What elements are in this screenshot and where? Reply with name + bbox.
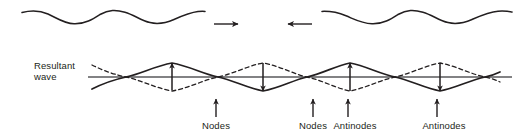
resultant-wave-label-line1: Resultant xyxy=(34,60,75,71)
nodes-label-2: Nodes xyxy=(299,120,327,131)
standing-wave-diagram: Resultant wave Nodes Nodes Antinodes Ant… xyxy=(0,0,528,138)
nodes-label-1: Nodes xyxy=(202,120,230,131)
antinodes-label-1: Antinodes xyxy=(333,120,376,131)
antinodes-label-2: Antinodes xyxy=(422,120,465,131)
diagram-canvas xyxy=(0,0,528,138)
travelling-wave-right xyxy=(322,10,512,23)
resultant-wave-label-line2: wave xyxy=(34,71,75,82)
travelling-wave-left xyxy=(22,10,205,23)
resultant-wave-label: Resultant wave xyxy=(34,60,75,82)
